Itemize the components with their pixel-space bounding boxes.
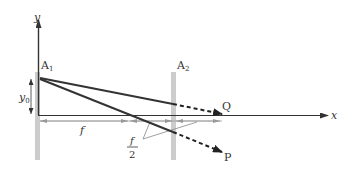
x-axis-label: x [331, 109, 338, 122]
screen-a1-label: A1 [40, 59, 53, 73]
ray-p-solid [40, 79, 173, 132]
distance-f-label: f [79, 124, 86, 137]
half-f-denominator: 2 [129, 149, 135, 160]
ray-q-dashed [173, 104, 222, 114]
optics-diagram: y x A1 A2 Q P y0 f f 2 [0, 0, 339, 171]
screen-a2-label: A2 [176, 59, 189, 73]
point-p-label: P [224, 151, 232, 164]
y0-label: y0 [18, 91, 30, 105]
ray-p-dashed [173, 132, 222, 152]
point-q-label: Q [222, 100, 231, 113]
ray-q-solid [40, 78, 173, 104]
leader-line-1 [143, 122, 150, 139]
half-f-numerator: f [129, 135, 136, 146]
y-axis-label: y [33, 11, 41, 24]
